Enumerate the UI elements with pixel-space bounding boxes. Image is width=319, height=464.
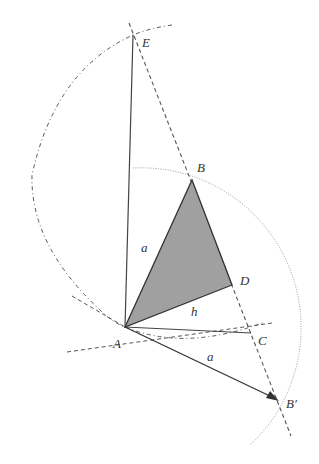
- label-c: C: [258, 333, 267, 348]
- dashed-line-upper-left: [72, 296, 125, 327]
- arrowhead-icon: [266, 391, 279, 401]
- label-b: B: [197, 160, 205, 175]
- segment-ab-prime: [125, 327, 272, 397]
- label-e: E: [141, 35, 150, 50]
- label-a-point: A: [112, 336, 121, 351]
- construction-diagram: E B D A C B′ a h a: [0, 0, 319, 464]
- label-side-a-prime: a: [207, 349, 214, 364]
- label-b-prime: B′: [286, 396, 297, 411]
- label-side-a: a: [141, 240, 148, 255]
- segment-ac: [125, 327, 251, 333]
- segment-ae: [125, 35, 133, 327]
- label-h: h: [191, 304, 198, 319]
- label-d: D: [239, 273, 250, 288]
